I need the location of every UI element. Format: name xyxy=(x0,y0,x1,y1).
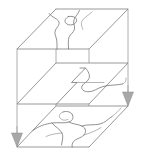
down-arrow-right-head xyxy=(123,92,134,106)
bottom-slice xyxy=(17,106,128,147)
middle-slice xyxy=(17,63,128,104)
block-diagram-svg xyxy=(0,0,144,157)
top-slice xyxy=(17,9,128,49)
middle-slice-outline xyxy=(17,63,128,104)
figure-root: Stacked Isometric Slice Block Diagram xyxy=(0,0,144,157)
down-arrow-right xyxy=(123,85,134,106)
top-slice-outline xyxy=(17,9,128,49)
middle-contour-tail xyxy=(123,78,127,84)
bottom-slice-outline xyxy=(17,106,128,147)
